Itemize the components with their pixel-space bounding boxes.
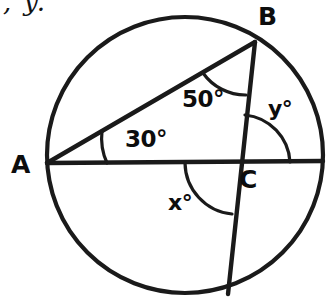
geometry-canvas <box>0 0 329 305</box>
circle-outline <box>47 17 323 293</box>
point-label-c: C <box>239 167 257 192</box>
angle-arc-30-at-a <box>102 131 107 163</box>
angle-label-30-degrees: 30° <box>125 128 167 151</box>
angle-label-50-degrees: 50° <box>182 88 224 111</box>
angle-label-y-degrees: y° <box>268 98 292 120</box>
point-label-a: A <box>11 152 30 177</box>
geometry-figure: , y. A B C 30° 50° y° x° <box>0 0 329 305</box>
point-label-b: B <box>258 4 277 29</box>
angle-arc-y-at-c <box>245 115 290 162</box>
angle-label-x-degrees: x° <box>168 192 192 214</box>
